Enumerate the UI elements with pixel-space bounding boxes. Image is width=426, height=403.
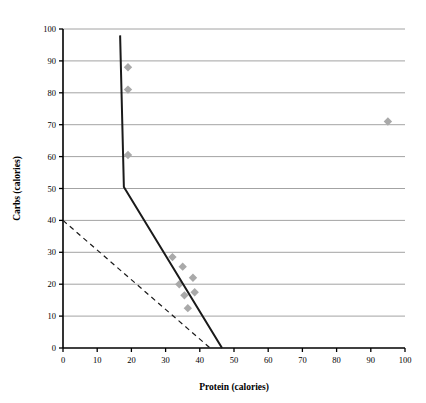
x-tick-label: 50 [230, 355, 239, 365]
x-tick-label: 30 [161, 355, 170, 365]
y-tick-label: 50 [48, 184, 57, 194]
x-tick-label: 0 [61, 355, 65, 365]
y-tick-label: 100 [43, 24, 56, 34]
x-tick-label: 90 [367, 355, 376, 365]
y-axis-title: Carbs (calories) [12, 156, 23, 221]
y-tick-label: 70 [48, 120, 57, 130]
y-tick-label: 30 [48, 247, 57, 257]
x-axis-title: Protein (calories) [199, 382, 269, 393]
chart-canvas: 0102030405060708090100010203040506070809… [0, 0, 426, 403]
x-tick-label: 80 [332, 355, 341, 365]
y-tick-label: 80 [48, 88, 57, 98]
x-tick-label: 20 [127, 355, 136, 365]
x-tick-label: 10 [93, 355, 102, 365]
y-tick-label: 40 [48, 215, 57, 225]
y-tick-label: 0 [52, 343, 56, 353]
y-tick-label: 20 [48, 279, 57, 289]
x-tick-label: 100 [399, 355, 412, 365]
x-tick-label: 70 [298, 355, 307, 365]
chart-background [0, 0, 426, 403]
x-tick-label: 40 [196, 355, 205, 365]
y-tick-label: 60 [48, 152, 57, 162]
scatter-chart: 0102030405060708090100010203040506070809… [0, 0, 426, 403]
y-tick-label: 90 [48, 56, 57, 66]
y-tick-label: 10 [48, 311, 57, 321]
x-tick-label: 60 [264, 355, 273, 365]
